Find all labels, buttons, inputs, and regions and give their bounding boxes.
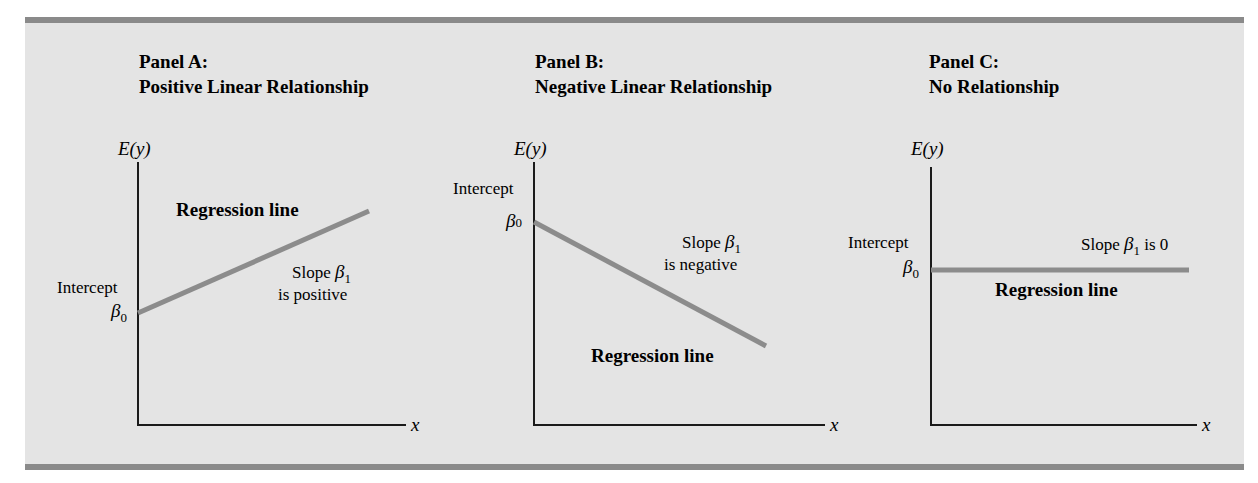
panel-b-axes	[534, 162, 825, 425]
panel-b-beta0: β10	[505, 210, 522, 231]
panel-a-slope-label: Slope β1	[292, 261, 351, 286]
panel-c-beta0: β0	[902, 256, 919, 281]
panel-c-y-axis-label: E(y)	[910, 138, 944, 160]
panel-b-title: Negative Linear Relationship	[535, 76, 772, 97]
panel-c-x-axis-label: x	[1201, 414, 1211, 435]
panel-b: Panel B: Negative Linear Relationship E(…	[453, 51, 839, 435]
panel-c-label: Panel C:	[929, 51, 999, 72]
panel-a: Panel A: Positive Linear Relationship E(…	[57, 51, 420, 435]
panel-a-title: Positive Linear Relationship	[139, 76, 369, 97]
panel-a-x-axis-label: x	[410, 414, 420, 435]
panel-c-intercept-label: Intercept	[848, 233, 909, 252]
panel-b-x-axis-label: x	[829, 414, 839, 435]
panel-c-title: No Relationship	[929, 76, 1059, 97]
panel-b-regression-label: Regression line	[591, 345, 714, 366]
panel-b-intercept-label: Intercept	[453, 179, 514, 198]
panel-a-y-axis-label: E(y)	[117, 138, 151, 160]
regression-diagram: Panel A: Positive Linear Relationship E(…	[0, 0, 1258, 483]
panel-c-regression-label: Regression line	[995, 279, 1118, 300]
panel-a-regression-label: Regression line	[176, 199, 299, 220]
panel-b-label: Panel B:	[535, 51, 604, 72]
panel-c: Panel C: No Relationship E(y) x Regressi…	[848, 51, 1211, 435]
panel-b-y-axis-label: E(y)	[513, 138, 547, 160]
panel-a-intercept-label: Intercept	[57, 278, 118, 297]
panel-a-beta0: β0	[110, 300, 127, 325]
panel-a-slope-desc: is positive	[278, 285, 347, 304]
panel-b-slope-desc: is negative	[664, 255, 737, 274]
panel-b-slope-label: Slope β1	[682, 231, 741, 256]
panel-c-slope-label: Slope β1 is 0	[1081, 233, 1168, 258]
panel-a-label: Panel A:	[139, 51, 208, 72]
